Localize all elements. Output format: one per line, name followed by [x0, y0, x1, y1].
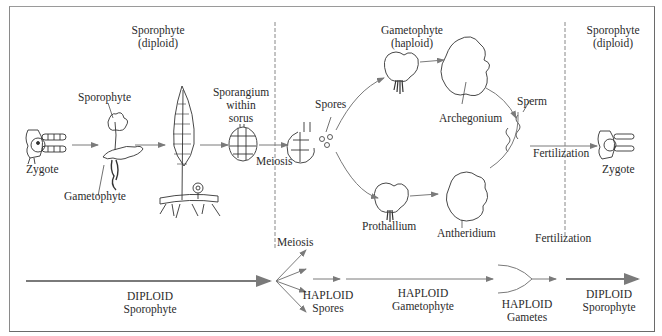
label-sporophyte-young: Sporophyte [78, 91, 131, 104]
timeline-haploid-gametes: HAPLOID Gametes [497, 298, 557, 324]
antheridium-icon [446, 172, 487, 228]
label-zygote-right: Zygote [602, 163, 635, 176]
label-antheridium: Antheridium [437, 227, 496, 240]
young-sporophyte-icon [98, 103, 143, 196]
phase-ploidy: (diploid) [118, 37, 198, 50]
timeline-haploid-spores: HAPLOID Spores [298, 289, 358, 315]
label-sperm: Sperm [517, 95, 547, 108]
timeline-ploidy: DIPLOID [110, 290, 190, 303]
phase-ploidy: (haploid) [372, 37, 452, 50]
label-line: sorus [206, 112, 276, 125]
timeline-ploidy: HAPLOID [497, 298, 557, 311]
zygote-left-icon [26, 130, 66, 164]
label-gametophyte-young: Gametophyte [64, 190, 126, 203]
label-meiosis-top: Meiosis [256, 155, 292, 168]
timeline-ploidy: DIPLOID [569, 288, 649, 301]
timeline-haploid-gametophyte: HAPLOID Gametophyte [383, 287, 463, 313]
phase-header-sporophyte-left: Sporophyte (diploid) [118, 24, 198, 50]
timeline-ploidy: HAPLOID [383, 287, 463, 300]
timeline-stage: Gametes [497, 311, 557, 324]
phase-ploidy: (diploid) [573, 37, 653, 50]
phase-name: Gametophyte [372, 24, 452, 37]
timeline-diploid-sporophyte-right: DIPLOID Sporophyte [569, 288, 649, 314]
label-zygote-left: Zygote [26, 163, 59, 176]
label-fertilization-top: Fertilization [533, 147, 589, 160]
gametophyte-upper-icon [384, 52, 418, 94]
label-line: within [206, 99, 276, 112]
timeline-stage: Sporophyte [110, 303, 190, 316]
phase-header-gametophyte: Gametophyte (haploid) [372, 24, 452, 50]
phase-header-sporophyte-right: Sporophyte (diploid) [573, 24, 653, 50]
phase-name: Sporophyte [118, 24, 198, 37]
spores-icon [320, 117, 333, 148]
timeline-stage: Sporophyte [569, 301, 649, 314]
label-fertilization-divider: Fertilization [535, 232, 591, 245]
label-sporangium: Sporangium within sorus [206, 86, 276, 125]
cycle-arrows [72, 60, 597, 198]
phase-name: Sporophyte [573, 24, 653, 37]
timeline-stage: Spores [298, 302, 358, 315]
timeline-diploid-sporophyte: DIPLOID Sporophyte [110, 290, 190, 316]
label-prothallium: Prothallium [362, 220, 416, 233]
prothallium-icon [374, 183, 408, 222]
label-meiosis-divider: Meiosis [277, 236, 313, 249]
zygote-right-icon [598, 131, 634, 159]
label-archegonium: Archegonium [439, 112, 502, 125]
label-line: Sporangium [206, 86, 276, 99]
timeline-ploidy: HAPLOID [298, 289, 358, 302]
sporangium-icon [229, 124, 257, 161]
timeline-stage: Gametophyte [383, 300, 463, 313]
label-spores: Spores [315, 98, 346, 111]
diagram-artwork [0, 0, 662, 336]
